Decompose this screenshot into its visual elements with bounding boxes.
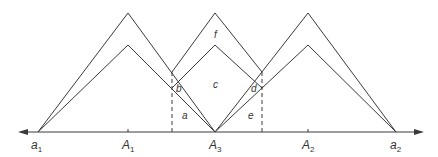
region-label-f: f [214, 30, 217, 40]
region-label-b: b [176, 84, 182, 94]
right-inner-triangle [215, 45, 396, 132]
label-a2: a2 [390, 139, 401, 154]
label-A2: A2 [302, 139, 314, 154]
middle-outer-triangle-top [172, 13, 262, 72]
right-outer-triangle [215, 13, 396, 132]
diagram-canvas [0, 0, 438, 157]
right-arrow-icon [414, 129, 424, 135]
region-label-c: c [213, 80, 218, 90]
label-A3: A3 [209, 139, 221, 154]
left-outer-triangle [38, 13, 215, 132]
left-inner-triangle [38, 45, 215, 132]
label-A1: A1 [122, 139, 134, 154]
region-label-d: d [251, 84, 257, 94]
triangular-membership-diagram: a1 A1 A3 A2 a2 a b c d e f [0, 0, 438, 157]
left-arrow-icon [18, 129, 28, 135]
region-label-e: e [248, 111, 254, 121]
region-label-a: a [182, 111, 188, 121]
label-a1: a1 [31, 139, 42, 154]
